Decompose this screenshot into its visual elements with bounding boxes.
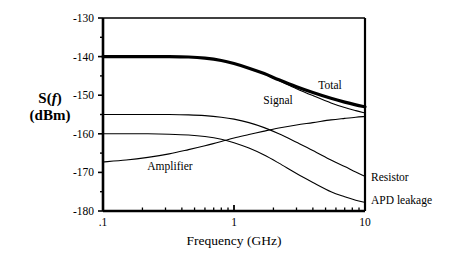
- curve-annotations: TotalSignalAmplifierResistorAPD leakage: [147, 79, 432, 207]
- y-tick-label: -140: [73, 51, 94, 63]
- x-tick-label: 1: [231, 216, 237, 228]
- x-axis-tick-labels: .1110: [99, 216, 371, 228]
- y-tick-label: -160: [73, 128, 94, 140]
- curve-label-apd-leakage: APD leakage: [371, 194, 432, 207]
- curve-amplifier: [103, 116, 365, 162]
- y-axis-tick-labels: -130-140-150-160-170-180: [73, 12, 94, 217]
- y-tick-label: -180: [73, 205, 94, 217]
- x-tick-label: .1: [99, 216, 108, 228]
- chart-figure: -130-140-150-160-170-180 .1110 TotalSign…: [0, 0, 449, 260]
- noise-spectral-density-chart: -130-140-150-160-170-180 .1110 TotalSign…: [0, 0, 449, 260]
- y-tick-label: -150: [73, 89, 94, 101]
- x-axis-ticks: [103, 205, 365, 211]
- curve-label-amplifier: Amplifier: [147, 160, 193, 173]
- y-tick-label: -130: [73, 12, 94, 24]
- curve-apd-leakage: [103, 134, 365, 203]
- y-tick-label: -170: [73, 166, 94, 178]
- y-axis-title-units: (dBm): [30, 107, 71, 124]
- x-tick-label: 10: [359, 216, 371, 228]
- y-axis-title-s: S(: [38, 90, 51, 107]
- y-axis-title: S(f) (dBm): [30, 90, 71, 124]
- curve-label-total: Total: [318, 79, 341, 91]
- y-axis-title-line1: S(f): [38, 90, 61, 107]
- y-axis-title-paren: ): [57, 90, 62, 107]
- curve-label-signal: Signal: [263, 94, 292, 107]
- curve-label-resistor: Resistor: [371, 171, 409, 183]
- x-axis-title: Frequency (GHz): [187, 233, 282, 248]
- curve-resistor: [103, 114, 365, 176]
